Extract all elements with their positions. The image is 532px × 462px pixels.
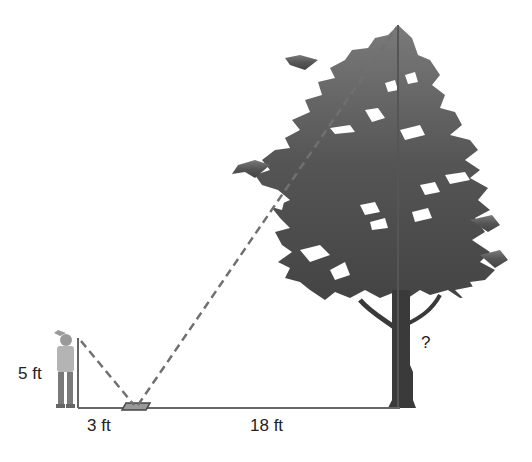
mirror <box>122 403 150 410</box>
tree-branch-right <box>405 295 440 325</box>
tree-trunk <box>388 290 416 408</box>
label-person-height: 5 ft <box>18 364 42 384</box>
label-mirror-to-tree: 18 ft <box>250 416 283 436</box>
label-tree-height: ? <box>421 333 430 353</box>
tree <box>232 25 508 408</box>
sight-line-person <box>81 341 134 405</box>
label-person-to-mirror: 3 ft <box>87 416 111 436</box>
person <box>54 330 75 408</box>
diagram-canvas <box>0 0 532 462</box>
